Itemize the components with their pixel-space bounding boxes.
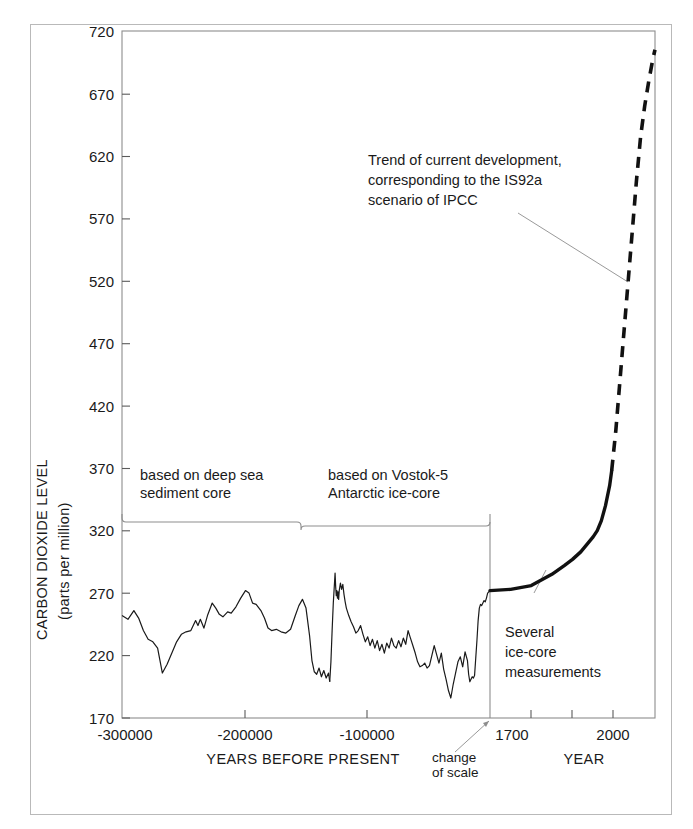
y-axis-title-units: (parts per million) (56, 502, 72, 620)
y-axis-title-main: CARBON DIOXIDE LEVEL (34, 459, 50, 640)
annotation-deep-sea-line1: based on deep sea (140, 467, 264, 483)
x-tick-label-minus300000: -300000 (97, 726, 152, 743)
scale-break-label-line1: change (432, 750, 476, 765)
y-tick-label-320: 320 (89, 522, 114, 539)
x-tick-label-minus100000: -100000 (339, 726, 394, 743)
chart-figure: 170 220 270 320 370 420 470 520 570 620 … (0, 0, 693, 829)
annotation-ice-core-line1: Several (505, 624, 554, 640)
y-tick-label-570: 570 (89, 210, 114, 227)
y-tick-label-270: 270 (89, 585, 114, 602)
x-tick-label-1700: 1700 (495, 726, 528, 743)
annotation-ice-core-line3: measurements (505, 664, 601, 680)
y-tick-label-670: 670 (89, 86, 114, 103)
scale-break-label-line2: of scale (432, 765, 479, 780)
x-axis-right-tick-labels: 1700 2000 (495, 726, 629, 743)
plot-frame (122, 31, 655, 718)
x-axis-left-tick-labels: -300000 -200000 -100000 (97, 726, 394, 743)
plot-area (122, 31, 655, 718)
x-tick-label-minus200000: -200000 (217, 726, 272, 743)
annotation-ipcc-line3: scenario of IPCC (368, 192, 478, 208)
y-tick-label-420: 420 (89, 398, 114, 415)
chart-svg: 170 220 270 320 370 420 470 520 570 620 … (0, 0, 693, 829)
scale-break-leader (455, 721, 489, 752)
annotation-vostok-line1: based on Vostok-5 (328, 467, 448, 483)
y-tick-label-370: 370 (89, 460, 114, 477)
x-axis-right-title: YEAR (563, 751, 604, 767)
y-axis-tick-labels: 170 220 270 320 370 420 470 520 570 620 … (89, 23, 114, 726)
y-tick-label-470: 470 (89, 335, 114, 352)
annotation-ipcc-line1: Trend of current development, (368, 152, 562, 168)
y-axis-title: CARBON DIOXIDE LEVEL (parts per million) (34, 459, 72, 640)
annotation-deep-sea-line2: sediment core (140, 485, 231, 501)
x-tick-label-2000: 2000 (596, 726, 629, 743)
annotation-vostok-line2: Antarctic ice-core (328, 485, 440, 501)
y-tick-label-720: 720 (89, 23, 114, 40)
x-axis-left-title: YEARS BEFORE PRESENT (206, 751, 399, 767)
y-tick-label-620: 620 (89, 148, 114, 165)
annotation-ice-core-line2: ice-core (505, 644, 557, 660)
y-tick-label-520: 520 (89, 273, 114, 290)
y-tick-label-220: 220 (89, 647, 114, 664)
y-tick-label-170: 170 (89, 710, 114, 727)
annotation-ipcc-line2: corresponding to the IS92a (368, 172, 543, 188)
